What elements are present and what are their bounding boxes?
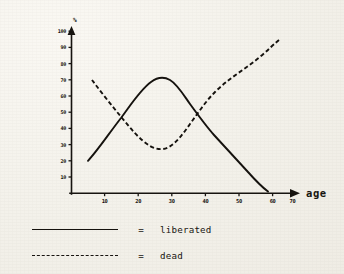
y-tick-label-20: 20 bbox=[60, 158, 66, 164]
x-tick-label-60: 60 bbox=[270, 198, 276, 204]
y-tick-label-80: 80 bbox=[60, 61, 66, 67]
y-tick-label-40: 40 bbox=[60, 125, 66, 131]
y-axis-arrowhead bbox=[68, 26, 76, 35]
chart-page: 100 90 80 70 60 50 40 30 20 10 % 10 20 3… bbox=[0, 0, 344, 274]
y-tick-label-30: 30 bbox=[60, 142, 66, 148]
y-tick-label-70: 70 bbox=[60, 77, 66, 83]
legend-swatch-solid-line bbox=[32, 229, 118, 230]
legend-swatch-dashed-line bbox=[32, 255, 118, 256]
y-tick-label-100: 100 bbox=[58, 28, 67, 34]
legend-row-liberated: = liberated bbox=[32, 224, 212, 235]
legend-label-dead: dead bbox=[160, 250, 183, 261]
y-tick-label-10: 10 bbox=[60, 174, 66, 180]
x-tick-label-40: 40 bbox=[202, 198, 208, 204]
legend-equals-dead: = bbox=[134, 250, 148, 261]
x-tick-label-10: 10 bbox=[102, 198, 108, 204]
legend-equals-liberated: = bbox=[134, 224, 148, 235]
y-axis-title: % bbox=[73, 16, 77, 23]
series-line-dead bbox=[92, 40, 279, 149]
y-tick-label-90: 90 bbox=[60, 44, 66, 50]
x-axis-title: age bbox=[306, 187, 327, 199]
legend-row-dead: = dead bbox=[32, 250, 183, 261]
y-tick-label-50: 50 bbox=[60, 109, 66, 115]
x-tick-label-30: 30 bbox=[169, 198, 175, 204]
legend-label-liberated: liberated bbox=[160, 224, 212, 235]
series-line-liberated bbox=[88, 78, 268, 192]
x-tick-label-70: 70 bbox=[290, 198, 296, 204]
x-tick-label-20: 20 bbox=[135, 198, 141, 204]
x-tick-label-50: 50 bbox=[236, 198, 242, 204]
y-tick-label-60: 60 bbox=[60, 93, 66, 99]
